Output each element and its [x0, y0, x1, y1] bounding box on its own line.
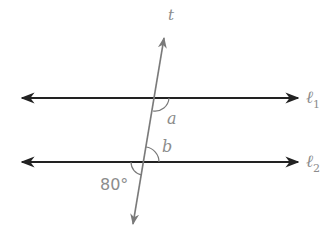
transversal-label: t: [168, 6, 175, 24]
line-l1-label: ℓ1: [306, 87, 320, 111]
angle-80-arc: [131, 162, 142, 175]
angle-a-label: a: [167, 109, 177, 128]
transversal-t: [133, 38, 164, 224]
angle-b-arc: [146, 147, 159, 162]
angle-80-label: 80°: [100, 175, 128, 194]
diagram-canvas: t a b 80° ℓ1 ℓ2: [0, 0, 333, 230]
angle-b-label: b: [162, 137, 172, 156]
line-l2-label: ℓ2: [306, 151, 320, 175]
